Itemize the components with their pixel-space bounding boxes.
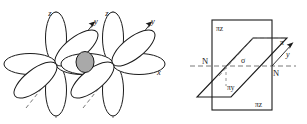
y-axis-left-label: y bbox=[93, 16, 98, 26]
sigma-overlap-region bbox=[76, 52, 94, 73]
nucleus-right-label: N bbox=[273, 68, 279, 78]
figure-container: z y z y x πz πz bbox=[0, 0, 307, 124]
z-axis-left-label: z bbox=[47, 8, 52, 18]
pi-z-top-label: πz bbox=[216, 24, 224, 33]
z-axis-right-label: z bbox=[104, 8, 109, 18]
sigma-label: σ bbox=[241, 56, 246, 65]
nucleus-left-label: N bbox=[202, 56, 208, 66]
pi-y-label: πy bbox=[227, 83, 235, 92]
y-axis-right-label: y bbox=[150, 16, 155, 26]
x-axis-label: x bbox=[156, 67, 161, 77]
figure-svg: z y z y x πz πz bbox=[0, 0, 307, 124]
pi-z-bottom-label: πz bbox=[255, 100, 263, 109]
y-direction-label: y bbox=[285, 50, 290, 59]
pi-label: π bbox=[280, 38, 284, 47]
